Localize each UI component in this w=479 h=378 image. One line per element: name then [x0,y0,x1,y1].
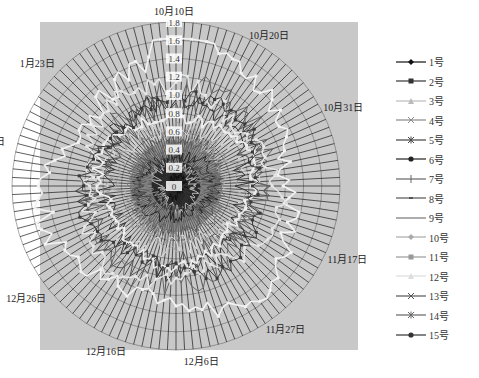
legend-item-14: 14号 [396,306,476,326]
radial-tick-label: 1.4 [168,54,180,64]
legend-item-15: 15号 [396,325,476,345]
legend-item-1: 1号 [396,52,476,72]
legend-label: 12号 [429,269,449,284]
legend-marker-icon [396,310,426,320]
legend-label: 11号 [429,249,449,264]
legend-item-2: 2号 [396,72,476,92]
legend-label: 5号 [429,132,444,147]
legend-marker-icon [396,271,426,281]
legend-label: 8号 [429,191,444,206]
legend-item-9: 9号 [396,208,476,228]
legend: 1号 2号 3号 4号 5号 6号 7号 8号 9号 10号 11号 12号 1… [396,52,476,345]
legend-item-12: 12号 [396,267,476,287]
legend-marker-icon [396,193,426,203]
legend-marker-icon [396,57,426,67]
legend-label: 4号 [429,113,444,128]
legend-item-4: 4号 [396,111,476,131]
legend-marker-icon [396,174,426,184]
legend-label: 13号 [429,288,449,303]
legend-label: 10号 [429,230,449,245]
radial-tick-label: 1.6 [168,36,180,46]
legend-marker-icon [396,135,426,145]
legend-marker-icon [396,213,426,223]
date-label: 10月20日 [249,27,289,42]
legend-marker-icon [396,252,426,262]
legend-label: 9号 [429,210,444,225]
radial-tick-label: 0.6 [168,127,180,137]
radial-tick-label: 1.0 [168,90,180,100]
date-label: 10月10日 [154,3,194,18]
legend-marker-icon [396,96,426,106]
legend-label: 15号 [429,327,449,342]
date-label: 12月26日 [6,290,46,305]
date-label: 1月23日 [20,55,55,70]
legend-label: 3号 [429,93,444,108]
legend-item-10: 10号 [396,228,476,248]
date-label: 11月27日 [266,321,306,336]
legend-item-11: 11号 [396,247,476,267]
legend-item-3: 3号 [396,91,476,111]
legend-marker-icon [396,115,426,125]
legend-marker-icon [396,76,426,86]
legend-label: 14号 [429,308,449,323]
legend-label: 7号 [429,171,444,186]
legend-item-8: 8号 [396,189,476,209]
legend-item-5: 5号 [396,130,476,150]
radial-tick-label: 0 [172,182,177,192]
radial-tick-label: 1.2 [168,72,179,82]
date-label: 1月13日 [0,133,5,148]
radial-tick-label: 0.8 [168,109,180,119]
legend-item-6: 6号 [396,150,476,170]
date-label: 10月31日 [323,99,363,114]
date-label: 12月6日 [184,353,219,368]
legend-marker-icon [396,154,426,164]
radial-tick-label: 1.8 [168,18,180,28]
legend-marker-icon [396,291,426,301]
radial-tick-label: 0.2 [168,163,179,173]
radial-tick-label: 0.4 [168,145,180,155]
legend-label: 6号 [429,152,444,167]
legend-label: 1号 [429,54,444,69]
legend-marker-icon [396,330,426,340]
date-label: 11月17日 [328,251,368,266]
legend-item-7: 7号 [396,169,476,189]
legend-item-13: 13号 [396,286,476,306]
legend-label: 2号 [429,74,444,89]
date-label: 12月16日 [86,343,126,358]
legend-marker-icon [396,232,426,242]
